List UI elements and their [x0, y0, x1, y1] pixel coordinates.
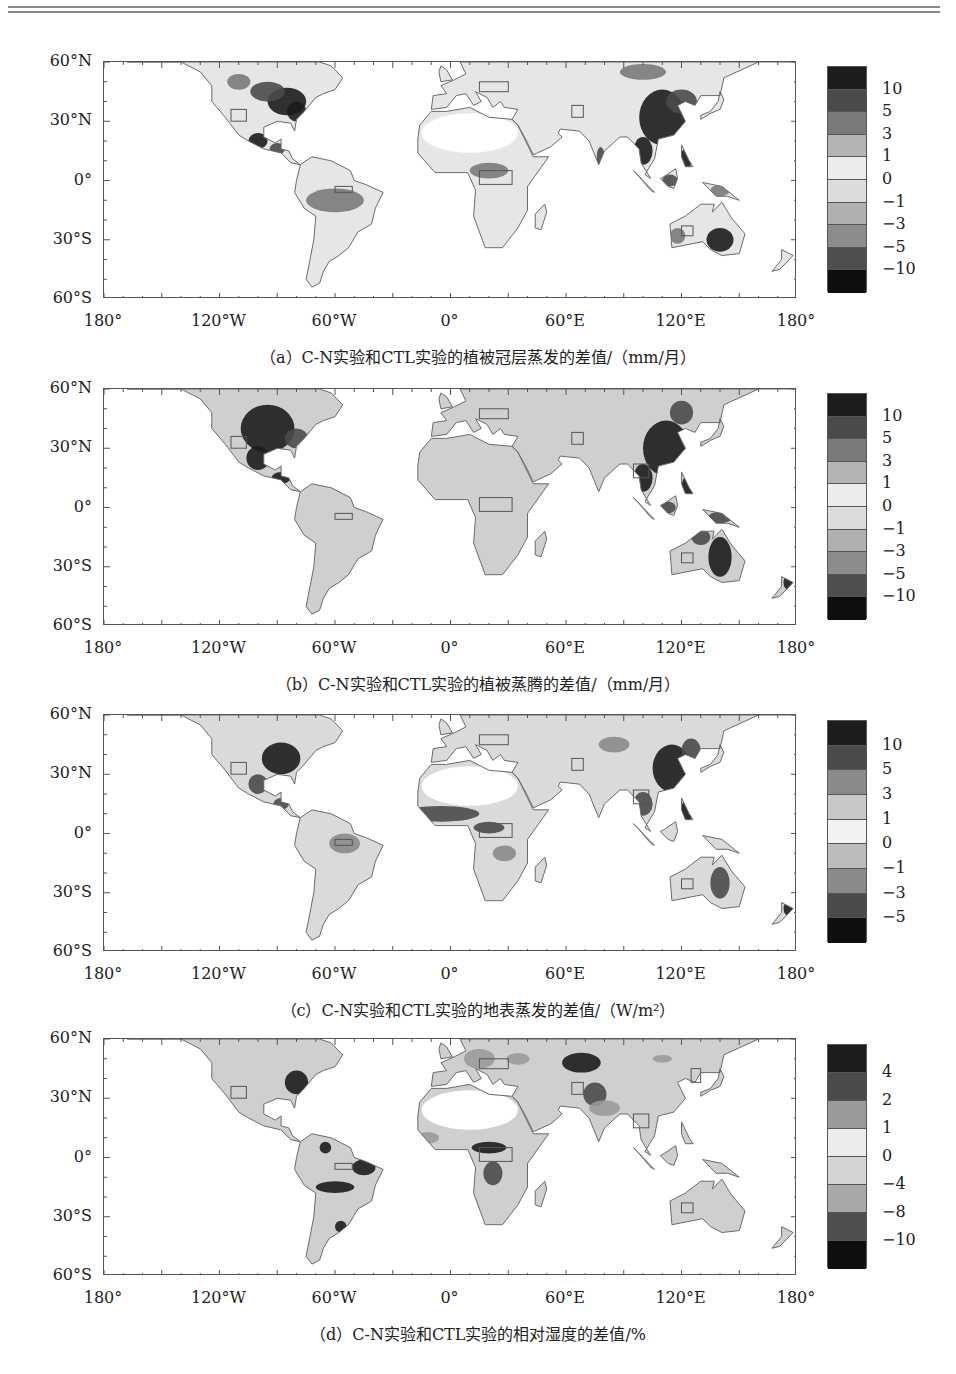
- colorbar-label: 10: [882, 407, 902, 425]
- x-tick-label: 120°E: [636, 639, 726, 657]
- colorbar-c: [827, 720, 867, 942]
- colorbar-swatch: [828, 552, 866, 575]
- x-tick-label: 180°: [58, 312, 148, 330]
- top-rule: [8, 6, 940, 8]
- panel-caption-b: （b）C-N实验和CTL实验的植被蒸腾的差值/（mm/月）: [0, 675, 956, 695]
- y-tick-label: 60°N: [22, 52, 92, 70]
- y-tick-label: 0°: [22, 498, 92, 516]
- world-map-a: [104, 62, 796, 298]
- colorbar-label: 1: [882, 810, 892, 828]
- colorbar-label: −10: [882, 260, 916, 278]
- colorbar-swatch: [828, 770, 866, 795]
- x-tick-label: 60°W: [289, 965, 379, 983]
- colorbar-label: −1: [882, 859, 906, 877]
- y-tick-label: 30°S: [22, 883, 92, 901]
- colorbar-swatch: [828, 248, 866, 271]
- colorbar-swatch: [828, 746, 866, 771]
- panel-caption-c: （c）C-N实验和CTL实验的地表蒸发的差值/（W/m²）: [0, 1001, 956, 1021]
- colorbar-label: −10: [882, 587, 916, 605]
- colorbar-swatch: [828, 1185, 866, 1213]
- colorbar-label: −5: [882, 238, 906, 256]
- colorbar-swatch: [828, 1157, 866, 1185]
- y-tick-label: 30°N: [22, 438, 92, 456]
- colorbar-swatch: [828, 507, 866, 530]
- x-tick-label: 0°: [405, 1289, 495, 1307]
- y-tick-label: 30°S: [22, 557, 92, 575]
- y-tick-label: 60°N: [22, 705, 92, 723]
- colorbar-a: [827, 66, 867, 292]
- x-tick-label: 60°E: [520, 1289, 610, 1307]
- y-tick-label: 0°: [22, 1148, 92, 1166]
- world-map-b: [104, 389, 796, 625]
- colorbar-swatch: [828, 575, 866, 598]
- colorbar-swatch: [828, 530, 866, 553]
- top-rule-2: [8, 11, 940, 13]
- y-tick-label: 60°S: [22, 942, 92, 960]
- colorbar-swatch: [828, 180, 866, 203]
- y-tick-label: 0°: [22, 171, 92, 189]
- y-tick-label: 30°N: [22, 764, 92, 782]
- colorbar-swatch: [828, 820, 866, 845]
- colorbar-swatch: [828, 112, 866, 135]
- colorbar-swatch: [828, 270, 866, 293]
- x-tick-label: 120°E: [636, 1289, 726, 1307]
- panel-caption-d: （d）C-N实验和CTL实验的相对湿度的差值/%: [0, 1325, 956, 1345]
- colorbar-label: −3: [882, 884, 906, 902]
- x-tick-label: 0°: [405, 312, 495, 330]
- colorbar-label: −4: [882, 1175, 906, 1193]
- colorbar-label: 0: [882, 497, 892, 515]
- colorbar-label: −5: [882, 565, 906, 583]
- x-tick-label: 180°: [751, 312, 841, 330]
- colorbar-label: 0: [882, 834, 892, 852]
- y-tick-label: 30°N: [22, 1088, 92, 1106]
- world-map-c: [104, 715, 796, 951]
- colorbar-swatch: [828, 1213, 866, 1241]
- y-tick-label: 0°: [22, 824, 92, 842]
- colorbar-swatch: [828, 135, 866, 158]
- x-tick-label: 120°E: [636, 312, 726, 330]
- colorbar-swatch: [828, 225, 866, 248]
- colorbar-swatch: [828, 90, 866, 113]
- y-tick-label: 30°S: [22, 230, 92, 248]
- x-tick-label: 180°: [751, 965, 841, 983]
- colorbar-label: 5: [882, 102, 892, 120]
- colorbar-label: 1: [882, 1119, 892, 1137]
- map-panel-b: [103, 388, 796, 625]
- colorbar-label: −8: [882, 1203, 906, 1221]
- colorbar-swatch: [828, 203, 866, 226]
- colorbar-swatch: [828, 894, 866, 919]
- colorbar-swatch: [828, 1129, 866, 1157]
- colorbar-label: −1: [882, 193, 906, 211]
- map-panel-a: [103, 61, 796, 298]
- colorbar-label: −1: [882, 520, 906, 538]
- colorbar-label: 3: [882, 785, 892, 803]
- x-tick-label: 120°W: [174, 1289, 264, 1307]
- colorbar-label: −3: [882, 542, 906, 560]
- colorbar-swatch: [828, 157, 866, 180]
- y-tick-label: 60°S: [22, 289, 92, 307]
- y-tick-label: 60°N: [22, 379, 92, 397]
- colorbar-swatch: [828, 918, 866, 943]
- colorbar-swatch: [828, 394, 866, 417]
- x-tick-label: 120°W: [174, 312, 264, 330]
- colorbar-label: 1: [882, 474, 892, 492]
- colorbar-label: 5: [882, 760, 892, 778]
- x-tick-label: 120°E: [636, 965, 726, 983]
- x-tick-label: 180°: [58, 965, 148, 983]
- y-tick-label: 30°S: [22, 1207, 92, 1225]
- colorbar-swatch: [828, 484, 866, 507]
- y-tick-label: 60°S: [22, 1266, 92, 1284]
- x-tick-label: 180°: [58, 1289, 148, 1307]
- colorbar-label: 0: [882, 170, 892, 188]
- colorbar-swatch: [828, 67, 866, 90]
- colorbar-swatch: [828, 844, 866, 869]
- panel-caption-a: （a）C-N实验和CTL实验的植被冠层蒸发的差值/（mm/月）: [0, 348, 956, 368]
- colorbar-swatch: [828, 1101, 866, 1129]
- x-tick-label: 120°W: [174, 965, 264, 983]
- y-tick-label: 60°N: [22, 1029, 92, 1047]
- colorbar-swatch: [828, 597, 866, 620]
- colorbar-swatch: [828, 1045, 866, 1073]
- colorbar-label: 4: [882, 1063, 892, 1081]
- colorbar-label: 10: [882, 80, 902, 98]
- colorbar-label: 5: [882, 429, 892, 447]
